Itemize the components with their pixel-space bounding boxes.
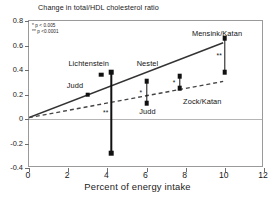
chart-title: Change in total/HDL cholesterol ratio	[38, 3, 159, 12]
plot-area: ******LichtensteinNestelJuddJuddZock/Kat…	[29, 21, 262, 166]
study-annotation: Zock/Katan	[183, 97, 221, 106]
error-bar	[111, 72, 112, 153]
data-point-marker	[99, 73, 104, 78]
y-tick-label: 0.2	[0, 89, 23, 98]
x-tick-label: 10	[219, 170, 229, 180]
y-tick-label: 0.4	[0, 65, 23, 74]
error-bar	[224, 38, 225, 72]
data-point-marker	[144, 101, 149, 106]
x-tick-label: 6	[143, 170, 148, 180]
trend-line-solid	[29, 43, 223, 118]
study-annotation: Lichtenstein	[68, 59, 109, 68]
data-point-marker	[223, 70, 228, 75]
data-point-marker	[109, 151, 114, 156]
y-tick-label: 0.6	[0, 40, 23, 49]
y-tick-label: -0.4	[0, 163, 23, 172]
plot-frame: ******LichtensteinNestelJuddJuddZock/Kat…	[28, 20, 263, 167]
y-tick-label: -0.2	[0, 138, 23, 147]
chart-root: Change in total/HDL cholesterol ratio **…	[0, 0, 275, 199]
data-point-marker	[144, 79, 149, 84]
significance-marker: *	[173, 79, 176, 86]
significance-legend: * p < 0.005 ** p <0.0001	[32, 23, 59, 35]
y-tick-mark	[25, 144, 29, 145]
error-bar	[146, 81, 147, 103]
significance-marker: **	[103, 109, 109, 116]
x-tick-label: 4	[104, 170, 109, 180]
study-annotation: Nestel	[137, 59, 159, 68]
y-tick-mark	[25, 46, 29, 47]
y-tick-mark	[25, 21, 29, 22]
y-tick-mark	[25, 119, 29, 120]
legend-item-p0001: ** p <0.0001	[32, 29, 59, 35]
study-annotation: Mensink/Katan	[192, 29, 242, 38]
x-tick-label: 0	[26, 170, 31, 180]
data-point-marker	[177, 86, 182, 91]
study-annotation: Judd	[67, 81, 83, 90]
data-point-marker	[109, 70, 114, 75]
y-tick-label: 0.8	[0, 16, 23, 25]
x-tick-label: 12	[258, 170, 268, 180]
x-axis-title: Percent of energy intake	[0, 181, 275, 192]
study-annotation: Judd	[139, 107, 155, 116]
y-tick-mark	[25, 70, 29, 71]
zero-reference-line	[29, 119, 262, 120]
x-tick-label: 8	[182, 170, 187, 180]
data-point-marker	[177, 74, 182, 79]
y-tick-mark	[25, 95, 29, 96]
data-point-marker	[85, 92, 90, 97]
y-tick-label: 0	[0, 114, 23, 123]
x-tick-label: 2	[65, 170, 70, 180]
significance-marker: **	[216, 51, 222, 58]
significance-marker: *	[140, 88, 143, 95]
